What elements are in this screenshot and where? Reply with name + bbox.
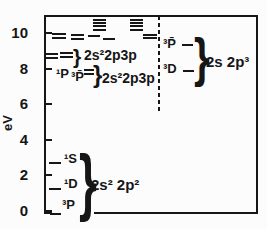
y-axis-line xyxy=(44,15,46,214)
y-tick-label: 2 xyxy=(2,167,28,183)
lower-config-label: 2s²2p3p xyxy=(102,71,155,85)
frame-bottom xyxy=(94,212,258,214)
energy-level xyxy=(52,37,66,39)
right-term-3pbar: ³P̄ xyxy=(163,37,176,50)
energy-level xyxy=(71,34,84,36)
energy-level xyxy=(93,25,106,27)
energy-level xyxy=(49,162,61,164)
lower-config-term-1p: ¹P xyxy=(56,67,69,80)
energy-level xyxy=(143,37,157,39)
energy-level xyxy=(182,44,193,46)
y-tick xyxy=(46,103,52,105)
ground-term-3p: ³P xyxy=(62,198,75,211)
energy-level xyxy=(52,33,66,35)
energy-level xyxy=(71,38,84,40)
energy-level xyxy=(49,188,61,190)
y-axis-label: eV xyxy=(0,108,14,138)
lower-config-term-3pbar: ³P̄ xyxy=(71,70,84,83)
y-tick xyxy=(46,174,52,176)
frame-top xyxy=(44,15,258,17)
energy-level xyxy=(183,70,194,72)
y-tick xyxy=(46,139,52,141)
energy-level xyxy=(130,19,143,21)
right-config-label: 2s 2p³ xyxy=(206,54,249,69)
y-tick xyxy=(46,68,52,70)
energy-level xyxy=(143,34,157,36)
lower-config-brace: } xyxy=(93,64,102,85)
energy-level xyxy=(46,53,58,55)
energy-level xyxy=(93,22,106,24)
y-tick-label: 0 xyxy=(2,203,28,219)
energy-level xyxy=(103,38,115,40)
right-term-3d: ³D xyxy=(163,62,177,75)
energy-level xyxy=(46,57,58,59)
energy-level xyxy=(93,29,106,31)
y-tick xyxy=(46,210,52,212)
frame-right xyxy=(256,15,258,214)
upper-config-brace: } xyxy=(73,47,81,65)
energy-level-diagram: 0246810 eV } 2s²2p3p ¹P ³P̄ } 2s²2p3p ³P… xyxy=(0,0,267,229)
upper-config-label: 2s²2p3p xyxy=(84,48,137,62)
energy-level xyxy=(93,19,106,21)
energy-level xyxy=(130,25,143,27)
dashed-divider xyxy=(158,16,160,111)
ground-config-label: 2s² 2p² xyxy=(91,177,139,192)
energy-level xyxy=(60,52,73,54)
y-tick-label: 10 xyxy=(2,25,28,41)
energy-level xyxy=(130,22,143,24)
energy-level xyxy=(60,56,73,58)
ground-term-1d: ¹D xyxy=(64,177,78,190)
energy-level xyxy=(50,213,61,215)
ground-term-1s: ¹S xyxy=(64,152,77,165)
energy-level xyxy=(88,35,100,37)
y-tick-label: 8 xyxy=(2,61,28,77)
energy-level xyxy=(130,29,143,31)
